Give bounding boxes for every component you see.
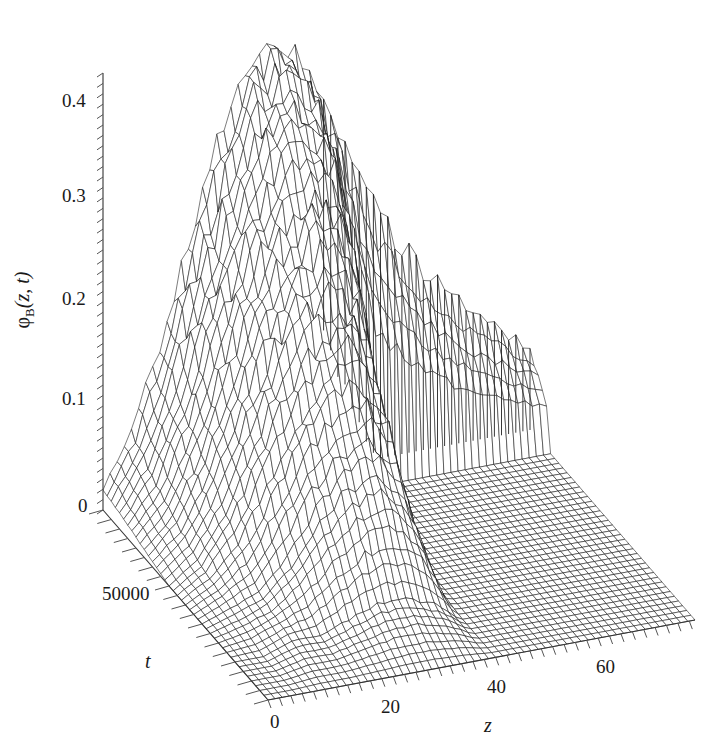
z-tick-0.3: 0.3 — [62, 185, 86, 206]
z-axis-label-symbol: φ — [11, 317, 34, 329]
x-tick-40: 40 — [487, 676, 506, 697]
surface-mesh — [103, 44, 695, 700]
x-tick-60: 60 — [596, 656, 615, 677]
x-tick-20: 20 — [381, 696, 400, 717]
z-axis-label-subscript: B — [22, 308, 37, 317]
z-axis-label-args: (z, t) — [11, 271, 34, 308]
z-tick-0.4: 0.4 — [62, 90, 86, 111]
z-axis-label: φB(z, t) — [11, 271, 37, 328]
t-tick-0: 0 — [270, 711, 280, 732]
t-axis-label: t — [145, 650, 151, 672]
surface-plot: 0 0.1 0.2 0.3 0.4 50000 0 20 40 60 z t φ… — [0, 0, 711, 750]
z-tick-0: 0 — [78, 495, 88, 516]
z-tick-0.1: 0.1 — [62, 388, 86, 409]
x-axis-label: z — [483, 714, 492, 736]
t-tick-50000: 50000 — [102, 583, 150, 604]
svg-text:φB(z, t): φB(z, t) — [11, 271, 37, 328]
z-tick-0.2: 0.2 — [62, 288, 86, 309]
